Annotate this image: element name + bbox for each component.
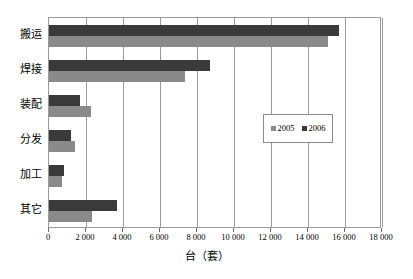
gridline bbox=[382, 18, 383, 227]
bar-2006 bbox=[49, 130, 71, 141]
legend-label-2006: 2006 bbox=[309, 124, 326, 133]
gridline bbox=[345, 18, 346, 227]
legend: 2005 2006 bbox=[263, 114, 333, 143]
legend-swatch-2006-icon bbox=[302, 126, 307, 131]
legend-swatch-2005-icon bbox=[271, 126, 276, 131]
category-label-6: 其它 bbox=[20, 204, 42, 215]
x-tick-label: 18 000 bbox=[356, 232, 406, 242]
category-label-3: 装配 bbox=[20, 99, 42, 110]
bar-2005 bbox=[49, 211, 92, 222]
bar-2005 bbox=[49, 176, 62, 187]
category-label-4: 分发 bbox=[20, 134, 42, 145]
bar-2006 bbox=[49, 25, 339, 36]
bar-chart: 搬运焊接装配分发加工其它 02 0004 0006 0008 00010 000… bbox=[0, 0, 413, 279]
category-label-5: 加工 bbox=[20, 169, 42, 180]
bar-2006 bbox=[49, 200, 117, 211]
bar-2006 bbox=[49, 60, 210, 71]
bar-2005 bbox=[49, 71, 185, 82]
legend-entry-2005: 2005 bbox=[271, 124, 295, 133]
gridline bbox=[160, 18, 161, 227]
x-axis-title: 台（套） bbox=[0, 247, 413, 263]
bar-2006 bbox=[49, 165, 64, 176]
category-label-1: 搬运 bbox=[20, 29, 42, 40]
bar-2005 bbox=[49, 141, 75, 152]
gridline bbox=[197, 18, 198, 227]
bar-2005 bbox=[49, 36, 328, 47]
gridline bbox=[234, 18, 235, 227]
bar-2006 bbox=[49, 95, 80, 106]
gridline bbox=[86, 18, 87, 227]
legend-label-2005: 2005 bbox=[278, 124, 295, 133]
category-label-2: 焊接 bbox=[20, 64, 42, 75]
gridline bbox=[123, 18, 124, 227]
bar-2005 bbox=[49, 106, 91, 117]
legend-entry-2006: 2006 bbox=[302, 124, 326, 133]
